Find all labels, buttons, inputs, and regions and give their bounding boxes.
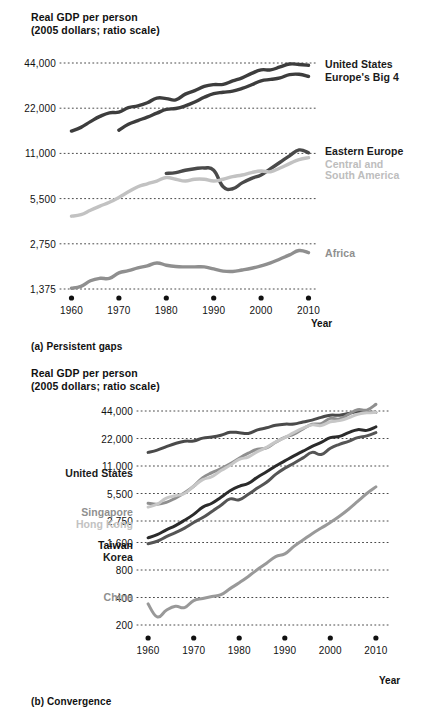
panel-b-caption: (b) Convergence [31,696,111,707]
x-tick-label: 1960 [49,305,95,316]
series-label-europe-s-big-4: Europe's Big 4 [325,73,399,85]
series-label-china: China [104,592,133,604]
x-tick-dot [282,635,287,640]
x-tick-label: 2000 [238,305,284,316]
series-label-singapore: Singapore [81,508,133,520]
series-label-line: South America [325,170,399,182]
x-tick-dot [259,295,264,300]
series-line-hong-kong [148,412,376,507]
y-tick-label: 5,500 [0,488,133,499]
x-tick-label: 1990 [262,645,308,656]
y-tick-label: 22,000 [0,103,56,114]
panel-b-plot [0,355,422,655]
x-tick-dot [146,635,151,640]
series-label-africa: Africa [325,248,355,260]
x-tick-label: 1980 [216,645,262,656]
y-tick-label: 2,750 [0,238,56,249]
series-line-united-states [71,64,308,131]
x-tick-dot [237,635,242,640]
x-tick-label: 1970 [96,305,142,316]
x-tick-label: 1960 [125,645,171,656]
series-label-eastern-europe: Eastern Europe [325,146,403,158]
series-label-united-states: United States [65,469,133,481]
y-tick-label: 200 [0,620,133,631]
y-tick-label: 5,500 [0,193,56,204]
series-label-line: Central and [325,158,399,170]
y-tick-label: 22,000 [0,433,133,444]
x-tick-label: 1980 [143,305,189,316]
x-tick-label: 2010 [353,645,399,656]
x-tick-dot [164,295,169,300]
series-line-africa [71,250,308,288]
x-tick-label: 2000 [307,645,353,656]
x-tick-label: 1990 [191,305,237,316]
panel-b-x-axis-label: Year [379,675,400,686]
x-tick-dot [116,295,121,300]
chart-panel-b: Real GDP per person (2005 dollars; ratio… [0,355,422,715]
y-tick-label: 800 [0,565,133,576]
series-label-korea: Korea [103,552,133,564]
x-tick-dot [373,635,378,640]
y-tick-label: 11,000 [0,148,56,159]
x-tick-label: 1970 [171,645,217,656]
y-tick-label: 44,000 [0,58,56,69]
series-label-united-states: United States [325,60,393,72]
y-tick-label: 44,000 [0,406,133,417]
series-label-central-and-south-america: Central andSouth America [325,158,399,181]
x-tick-dot [306,295,311,300]
panel-a-caption: (a) Persistent gaps [31,341,122,352]
chart-panel-a: Real GDP per person (2005 dollars; ratio… [0,0,422,360]
panel-a-x-axis-label: Year [311,318,332,329]
x-tick-label: 2010 [286,305,332,316]
y-tick-label: 1,375 [0,284,56,295]
x-tick-dot [328,635,333,640]
x-tick-dot [69,295,74,300]
series-line-eastern-europe [166,150,308,190]
x-tick-dot [211,295,216,300]
series-label-taiwan: Taiwan [98,540,133,552]
x-tick-dot [191,635,196,640]
series-label-hong-kong: Hong Kong [76,519,133,531]
